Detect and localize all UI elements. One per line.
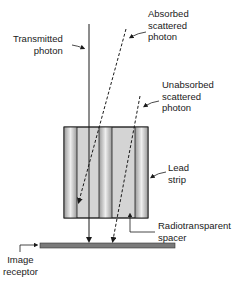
leader-absorbed [131,32,146,37]
lead-strip [135,127,148,218]
leader-lead-strip [152,172,166,177]
leader-unabsorbed [145,101,159,106]
leader-transmitted [72,45,83,48]
label-transmitted-photon: Transmitted photon [13,33,63,56]
label-lead-strip: Lead strip [168,162,189,185]
image-receptor [40,243,175,248]
grid [64,127,148,218]
lead-strip [64,127,77,218]
label-absorbed-scattered-photon: Absorbed scattered photon [148,8,189,43]
leader-receptor [20,245,36,252]
label-image-receptor: Image receptor [3,254,38,277]
lead-strip [99,127,112,218]
label-radiotransparent-spacer: Radiotransparent spacer [158,220,231,243]
label-unabsorbed-scattered-photon: Unabsorbed scattered photon [162,79,214,114]
